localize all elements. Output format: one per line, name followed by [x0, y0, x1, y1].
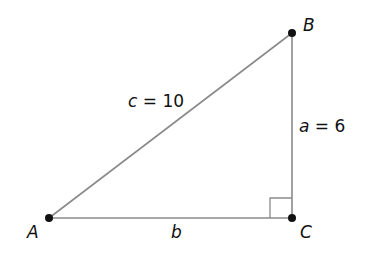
point-c — [288, 214, 296, 222]
side-c-value: = 10 — [137, 91, 184, 111]
point-a — [45, 214, 53, 222]
side-a-var: a — [299, 116, 309, 136]
side-c-label: c = 10 — [128, 91, 184, 111]
side-a-label: a = 6 — [299, 116, 345, 136]
right-angle-marker — [270, 198, 292, 218]
right-triangle-diagram: A B C c = 10 a = 6 b — [0, 0, 368, 254]
vertex-label-b: B — [303, 15, 315, 35]
triangle-sides — [49, 33, 292, 218]
vertex-label-a: A — [26, 222, 39, 242]
side-a-value: = 6 — [309, 116, 345, 136]
point-b — [288, 29, 296, 37]
side-c-hypotenuse — [49, 33, 292, 218]
vertex-label-c: C — [300, 222, 312, 242]
side-b-label: b — [171, 222, 182, 242]
